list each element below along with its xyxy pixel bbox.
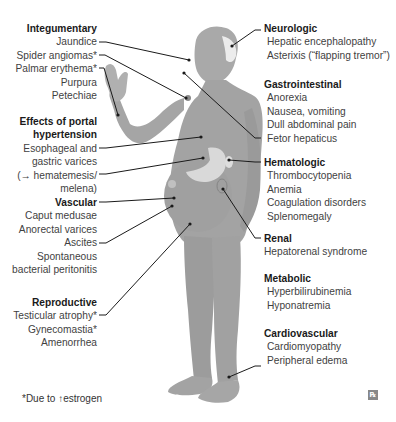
group-title: Vascular: [12, 196, 97, 209]
list-item: Caput medusae: [12, 209, 97, 222]
group-vascular: Vascular Caput medusae Anorectal varices…: [12, 196, 97, 276]
list-item: gastric varices: [17, 155, 97, 168]
group-title: Hematologic: [264, 156, 366, 169]
list-item: Spider angiomas*: [15, 49, 97, 62]
group-portal-hypertension: Effects of portal hypertension Esophagea…: [17, 115, 97, 195]
list-item: Fetor hepaticus: [264, 132, 356, 145]
group-title: Neurologic: [264, 22, 390, 35]
group-title: Gastrointestinal: [264, 78, 356, 91]
list-item: Peripheral edema: [264, 354, 347, 367]
group-metabolic: Metabolic Hyperbilirubinemia Hyponatremi…: [264, 272, 351, 312]
list-item: Ascites: [12, 236, 97, 249]
group-title: Metabolic: [264, 272, 351, 285]
group-title: hypertension: [17, 128, 97, 141]
list-item: (→ hematemesis/: [17, 169, 97, 182]
group-title: Integumentary: [15, 22, 97, 35]
list-item: Hyperbilirubinemia: [264, 285, 351, 298]
list-item: Nausea, vomiting: [264, 105, 356, 118]
body-silhouette: [105, 27, 263, 403]
list-item: Cardiomyopathy: [264, 340, 347, 353]
group-title: Effects of portal: [17, 115, 97, 128]
list-item: Splenomegaly: [264, 210, 366, 223]
list-item: Palmar erythema*: [15, 62, 97, 75]
list-item: Anorexia: [264, 91, 356, 104]
group-reproductive: Reproductive Testicular atrophy* Gynecom…: [13, 296, 97, 350]
group-integumentary: Integumentary Jaundice Spider angiomas* …: [15, 22, 97, 102]
list-item: Hepatorenal syndrome: [264, 245, 367, 258]
list-item: melena): [17, 182, 97, 195]
list-item: bacterial peritonitis: [12, 263, 97, 276]
publisher-logo-icon: ℞: [368, 390, 378, 400]
list-item: Testicular atrophy*: [13, 309, 97, 322]
group-renal: Renal Hepatorenal syndrome: [264, 232, 367, 259]
list-item: Asterixis (“flapping tremor”): [264, 49, 390, 62]
list-item: Esophageal and: [17, 142, 97, 155]
spleen-highlight: [225, 156, 233, 168]
list-item: Hepatic encephalopathy: [264, 35, 390, 48]
list-item: Anemia: [264, 183, 366, 196]
list-item: Petechiae: [15, 89, 97, 102]
group-hematologic: Hematologic Thrombocytopenia Anemia Coag…: [264, 156, 366, 223]
list-item: Gynecomastia*: [13, 323, 97, 336]
list-item: Anorectal varices: [12, 223, 97, 236]
list-item: Amenorrhea: [13, 336, 97, 349]
group-title: Renal: [264, 232, 367, 245]
list-item: Jaundice: [15, 35, 97, 48]
group-gastrointestinal: Gastrointestinal Anorexia Nausea, vomiti…: [264, 78, 356, 145]
group-title: Cardiovascular: [264, 327, 347, 340]
list-item: Purpura: [15, 76, 97, 89]
caput-medusae-mark: [168, 180, 176, 188]
list-item: Coagulation disorders: [264, 196, 366, 209]
list-item: Spontaneous: [12, 250, 97, 263]
list-item: Dull abdominal pain: [264, 118, 356, 131]
group-cardiovascular: Cardiovascular Cardiomyopathy Peripheral…: [264, 327, 347, 367]
group-neurologic: Neurologic Hepatic encephalopathy Asteri…: [264, 22, 390, 62]
list-item: Thrombocytopenia: [264, 169, 366, 182]
footnote: *Due to ↑estrogen: [22, 393, 102, 404]
list-item: Hyponatremia: [264, 299, 351, 312]
group-title: Reproductive: [13, 296, 97, 309]
